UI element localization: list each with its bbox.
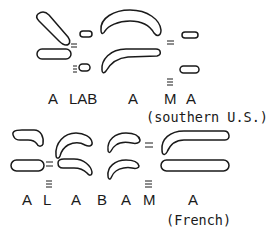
segment-label: L bbox=[43, 191, 51, 208]
segment-label: A bbox=[121, 191, 131, 208]
gesture-small-pill-lower bbox=[79, 64, 90, 71]
gesture-diagonal bbox=[37, 12, 70, 45]
segment-label: A bbox=[128, 90, 138, 107]
gesture-arc-2-lower bbox=[58, 159, 92, 175]
gesture-small-pill-right-lower bbox=[180, 66, 199, 73]
dialect-note: (southern U.S.) bbox=[146, 109, 267, 125]
gesture-hook-left bbox=[13, 130, 43, 146]
segment-label: A bbox=[186, 90, 196, 107]
gesture-arc-long-upper bbox=[162, 131, 229, 154]
gesture-arc-3-lower bbox=[108, 160, 139, 179]
segment-label: LAB bbox=[69, 90, 97, 107]
gesture-small-pill-right bbox=[182, 32, 198, 38]
gesture-bar-left bbox=[11, 160, 44, 171]
segment-label: A bbox=[22, 191, 32, 208]
segment-label: M bbox=[143, 191, 156, 208]
gesture-bar-left bbox=[37, 49, 71, 59]
gesture-arc-lower bbox=[102, 49, 160, 73]
panel-french: A L A B A M A (French) bbox=[11, 130, 231, 228]
gesture-arc-3-upper bbox=[108, 133, 140, 152]
segment-label: A bbox=[48, 90, 58, 107]
dialect-note: (French) bbox=[166, 212, 231, 228]
panel-southern-us: A LAB A M A (southern U.S.) bbox=[37, 10, 267, 125]
segment-label: A bbox=[71, 191, 81, 208]
segment-label: A bbox=[188, 191, 198, 208]
diagram-canvas: A LAB A M A (southern U.S.) bbox=[0, 0, 267, 236]
gesture-arc-upper bbox=[101, 10, 161, 35]
gesture-arc-2-upper bbox=[56, 133, 92, 158]
segment-label: M bbox=[164, 90, 177, 107]
segment-label: B bbox=[97, 191, 107, 208]
gesture-bar-long-lower bbox=[161, 160, 229, 171]
gesture-small-pill bbox=[80, 31, 92, 37]
